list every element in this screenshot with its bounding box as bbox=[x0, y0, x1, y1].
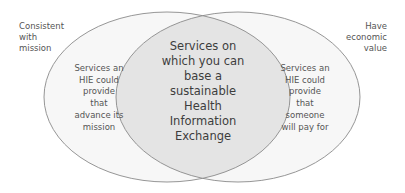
label-line: Services an bbox=[64, 63, 134, 75]
label-line: Have bbox=[335, 21, 387, 32]
label-line: sustainable bbox=[153, 84, 253, 99]
label-line: that bbox=[64, 98, 134, 110]
label-line: base a bbox=[153, 69, 253, 84]
label-line: mission bbox=[64, 122, 134, 134]
label-line: which you can bbox=[153, 54, 253, 69]
intersection-label: Services on which you can base a sustain… bbox=[153, 39, 253, 144]
label-line: value bbox=[335, 43, 387, 54]
label-line: Consistent bbox=[19, 21, 64, 32]
label-line: HIE could bbox=[64, 75, 134, 87]
left-set-inner-label: Services an HIE could provide that advan… bbox=[64, 63, 134, 133]
label-line: with bbox=[19, 32, 64, 43]
label-line: Information bbox=[153, 114, 253, 129]
label-line: advance its bbox=[64, 110, 134, 122]
right-set-outer-label: Have economic value bbox=[335, 21, 387, 54]
label-line: provide bbox=[64, 86, 134, 98]
label-line: economic bbox=[335, 32, 387, 43]
right-set-inner-label: Services an HIE could provide that someo… bbox=[270, 63, 340, 133]
left-set-outer-label: Consistent with mission bbox=[19, 21, 64, 54]
label-line: that bbox=[270, 98, 340, 110]
label-line: someone bbox=[270, 110, 340, 122]
label-line: HIE could bbox=[270, 75, 340, 87]
label-line: Services an bbox=[270, 63, 340, 75]
label-line: mission bbox=[19, 43, 64, 54]
label-line: Exchange bbox=[153, 129, 253, 144]
label-line: will pay for bbox=[270, 122, 340, 134]
label-line: Health bbox=[153, 99, 253, 114]
label-line: provide bbox=[270, 86, 340, 98]
label-line: Services on bbox=[153, 39, 253, 54]
